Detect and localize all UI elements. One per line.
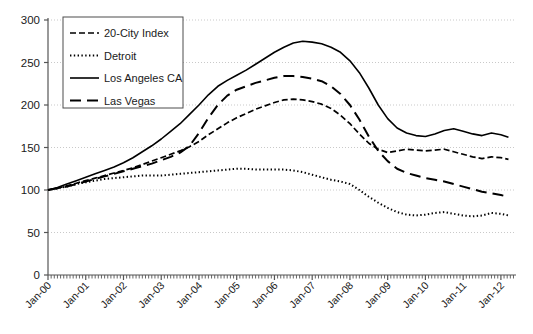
- legend-label: Las Vegas: [104, 95, 156, 107]
- legend-label: Detroit: [104, 50, 136, 62]
- y-tick-label: 150: [21, 142, 40, 154]
- y-tick-label: 250: [21, 57, 40, 69]
- y-tick-label: 100: [21, 184, 40, 196]
- y-tick-label: 300: [21, 14, 40, 26]
- chart-canvas: 050100150200250300 Jan-00Jan-01Jan-02Jan…: [0, 0, 533, 334]
- legend: 20-City IndexDetroitLos Angeles CALas Ve…: [63, 17, 183, 108]
- legend-label: 20-City Index: [104, 27, 169, 39]
- y-tick-label: 200: [21, 99, 40, 111]
- house-price-index-chart: 050100150200250300 Jan-00Jan-01Jan-02Jan…: [0, 0, 533, 334]
- y-tick-label: 0: [34, 269, 40, 281]
- y-tick-label: 50: [27, 227, 40, 239]
- legend-label: Los Angeles CA: [104, 72, 183, 84]
